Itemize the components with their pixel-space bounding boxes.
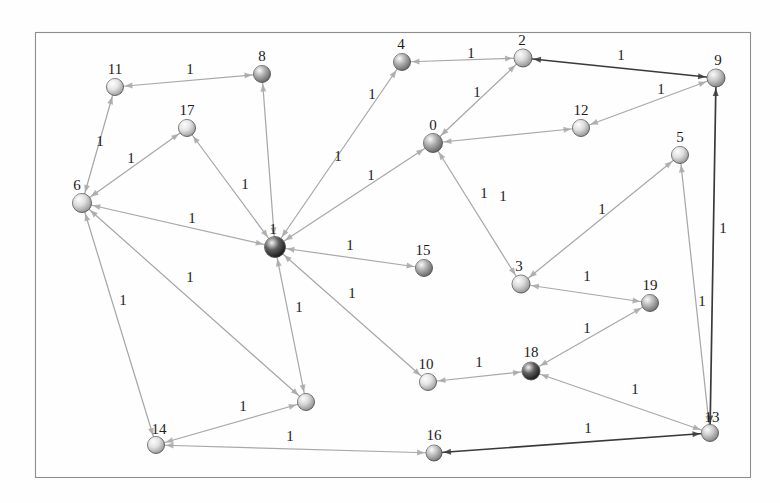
graph-node[interactable] [254, 66, 271, 83]
edge-weight-label: 1 [286, 428, 294, 444]
graph-node[interactable] [265, 237, 286, 258]
edge-weight-label: 1 [467, 45, 475, 61]
graph-node[interactable] [522, 362, 540, 380]
graph-svg: 11111111111111111111111111111 0123456891… [0, 0, 780, 503]
graph-edge [156, 402, 306, 445]
graph-node[interactable] [298, 394, 315, 411]
edge-arrowhead [282, 229, 289, 237]
graph-node[interactable] [420, 374, 437, 391]
node-sphere-shading [642, 295, 659, 312]
node-sphere-shading [514, 49, 532, 67]
node-id-label: 15 [416, 242, 431, 258]
edge-arrowhead [692, 424, 700, 430]
edge-weight-label: 1 [119, 292, 127, 308]
node-sphere-shading [424, 134, 443, 153]
graph-edge [275, 143, 433, 247]
node-id-label: 14 [152, 421, 168, 437]
edge-weight-label: 1 [631, 381, 639, 397]
edge-weight-label: 1 [583, 268, 591, 284]
edge-weight-label: 1 [719, 220, 727, 236]
graph-edge [156, 445, 434, 453]
edge-arrowhead [443, 449, 451, 455]
graph-edge [531, 303, 650, 371]
node-sphere-shading [420, 374, 437, 391]
edge-weight-label: 1 [698, 293, 706, 309]
graph-edge [710, 78, 716, 433]
node-id-label: 13 [705, 409, 720, 425]
edge-weight-label: 1 [657, 81, 665, 97]
node-sphere-shading [298, 394, 315, 411]
edge-arrowhead [288, 404, 296, 410]
graph-node[interactable] [394, 54, 411, 71]
edge-arrowhead [563, 127, 571, 133]
edge-arrowhead [171, 134, 179, 141]
edge-arrowhead [417, 450, 425, 456]
node-id-label: 18 [524, 344, 539, 360]
edge-arrowhead [85, 214, 91, 222]
edge-arrowhead [166, 443, 174, 449]
edge-arrowhead [406, 263, 414, 269]
edge-arrowhead [287, 247, 295, 253]
node-id-label: 4 [397, 36, 405, 52]
edge-arrowhead [261, 230, 268, 238]
graph-node[interactable] [707, 69, 725, 87]
edge-weight-label: 1 [368, 86, 376, 102]
node-sphere-shading [179, 120, 196, 137]
edge-arrowhead [679, 165, 685, 173]
node-sphere-shading [512, 275, 530, 293]
graph-node[interactable] [512, 275, 530, 293]
edge-weight-label: 1 [475, 354, 483, 370]
node-sphere-shading [265, 237, 286, 258]
edge-arrowhead [93, 204, 101, 210]
edge-weight-label: 1 [96, 133, 104, 149]
graph-node[interactable] [573, 120, 590, 137]
edge-arrowhead [505, 56, 513, 62]
edge-arrowhead [633, 308, 641, 314]
node-sphere-shading [107, 79, 124, 96]
node-sphere-shading [707, 69, 725, 87]
node-sphere-shading [416, 260, 433, 277]
edge-weight-label: 1 [188, 210, 196, 226]
graph-node[interactable] [514, 49, 532, 67]
graph-edge [581, 78, 716, 128]
graph-edge [521, 155, 680, 284]
edge-weight-label: 1 [241, 176, 249, 192]
graph-node[interactable] [426, 445, 442, 461]
edge-weight-label: 1 [583, 320, 591, 336]
edge-weight-label: 1 [346, 237, 354, 253]
edge-weight-label: 1 [367, 167, 375, 183]
edge-weight-label: 1 [473, 84, 481, 100]
node-id-label: 11 [108, 61, 122, 77]
node-sphere-shading [148, 437, 165, 454]
node-id-label: 16 [427, 427, 443, 443]
edge-weight-label: 1 [239, 398, 247, 414]
node-id-labels-layer: 01234568910111213141516171819 [73, 32, 722, 443]
graph-node[interactable] [702, 425, 719, 442]
edge-weight-label: 1 [186, 269, 194, 285]
graph-node[interactable] [424, 134, 443, 153]
node-sphere-shading [254, 66, 271, 83]
graph-edge [433, 128, 581, 143]
node-sphere-shading [522, 362, 540, 380]
edge-arrowhead [541, 374, 549, 380]
edge-arrowhead [698, 81, 706, 87]
edge-weight-label: 1 [127, 150, 135, 166]
edge-arrowhead [513, 370, 521, 376]
graph-edge [433, 58, 523, 143]
graph-figure-container: 11111111111111111111111111111 0123456891… [0, 0, 780, 503]
figure-frame [36, 33, 751, 478]
graph-edge [521, 284, 650, 303]
graph-node[interactable] [642, 295, 659, 312]
graph-node[interactable] [672, 147, 689, 164]
graph-node[interactable] [107, 79, 124, 96]
edge-arrowhead [692, 431, 700, 437]
graph-node[interactable] [148, 437, 165, 454]
edge-arrowhead [590, 119, 598, 125]
graph-node[interactable] [73, 194, 92, 213]
node-id-label: 8 [258, 48, 266, 64]
edge-arrowhead [260, 84, 266, 92]
graph-node[interactable] [416, 260, 433, 277]
edge-arrowhead [91, 190, 99, 197]
edge-arrowhead [438, 377, 446, 383]
graph-node[interactable] [179, 120, 196, 137]
